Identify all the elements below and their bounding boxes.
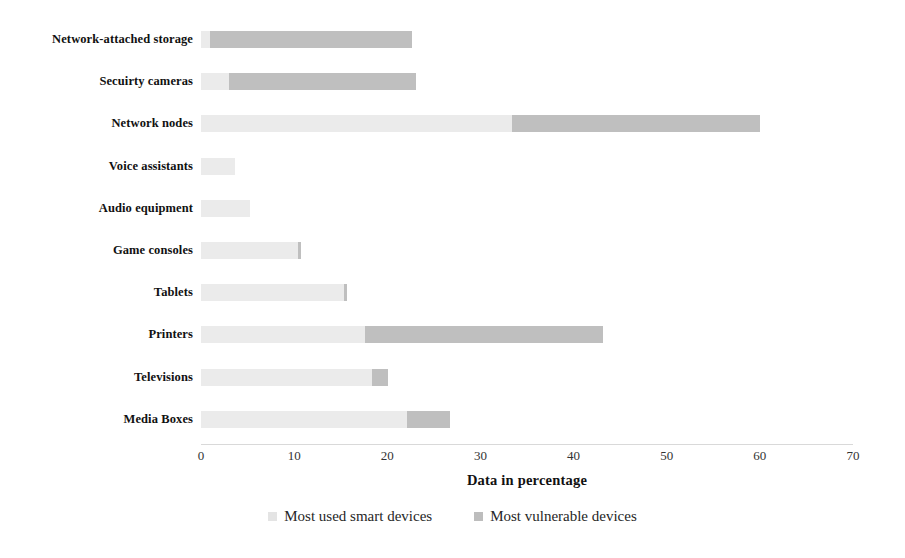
- bar-row: [201, 369, 388, 386]
- bar-row: [201, 31, 412, 48]
- y-axis-category-label: Voice assistants: [0, 159, 193, 173]
- bar-segment-most-vulnerable: [512, 115, 760, 132]
- bar-chart: Network-attached storageSecuirty cameras…: [0, 0, 905, 558]
- legend-swatch-vulnerable-icon: [474, 512, 483, 521]
- y-axis-category-label: Tablets: [0, 285, 193, 299]
- y-axis-category-label: Printers: [0, 327, 193, 341]
- x-axis-tick-label: 10: [288, 448, 301, 464]
- bar-segment-most-used: [201, 326, 365, 343]
- bar-row: [201, 242, 301, 259]
- bar-segment-most-vulnerable: [365, 326, 603, 343]
- bar-row: [201, 115, 760, 132]
- bar-row: [201, 73, 416, 90]
- bar-segment-most-vulnerable: [407, 411, 450, 428]
- bar-segment-most-used: [201, 411, 407, 428]
- bar-segment-most-used: [201, 73, 229, 90]
- legend-swatch-used-icon: [268, 512, 277, 521]
- x-axis-tick-label: 60: [753, 448, 766, 464]
- bar-segment-most-used: [201, 115, 512, 132]
- x-axis-tick-label: 20: [381, 448, 394, 464]
- bar-segment-most-used: [201, 242, 298, 259]
- bar-segment-most-used: [201, 200, 250, 217]
- bar-segment-most-used: [201, 284, 344, 301]
- bar-row: [201, 284, 347, 301]
- y-axis-category-label: Televisions: [0, 370, 193, 384]
- chart-legend: Most used smart devices Most vulnerable …: [0, 508, 905, 525]
- plot-area: [201, 22, 853, 444]
- bar-segment-most-vulnerable: [298, 242, 301, 259]
- bar-row: [201, 200, 250, 217]
- bar-segment-most-vulnerable: [344, 284, 347, 301]
- bar-segment-most-vulnerable: [372, 369, 388, 386]
- x-axis-title: Data in percentage: [201, 472, 853, 489]
- y-axis-category-labels: Network-attached storageSecuirty cameras…: [0, 22, 193, 444]
- bar-segment-most-used: [201, 158, 235, 175]
- bar-segment-most-vulnerable: [229, 73, 416, 90]
- y-axis-category-label: Network-attached storage: [0, 32, 193, 46]
- y-axis-category-label: Game consoles: [0, 243, 193, 257]
- bar-segment-most-used: [201, 369, 372, 386]
- x-axis-tick-label: 70: [847, 448, 860, 464]
- x-axis-tick-label: 30: [474, 448, 487, 464]
- bar-segment-most-vulnerable: [210, 31, 411, 48]
- x-axis-tick-labels: 010203040506070: [0, 448, 905, 468]
- bar-row: [201, 158, 235, 175]
- bar-segment-most-used: [201, 31, 210, 48]
- x-axis-tick-label: 0: [198, 448, 205, 464]
- legend-label-most-vulnerable-devices: Most vulnerable devices: [490, 508, 637, 525]
- bar-row: [201, 326, 603, 343]
- y-axis-category-label: Media Boxes: [0, 412, 193, 426]
- x-axis-tick-label: 50: [660, 448, 673, 464]
- x-axis-tick-label: 40: [567, 448, 580, 464]
- y-axis-category-label: Secuirty cameras: [0, 74, 193, 88]
- y-axis-category-label: Network nodes: [0, 116, 193, 130]
- legend-label-most-used-smart-devices: Most used smart devices: [284, 508, 432, 525]
- x-axis-line: [201, 444, 853, 445]
- legend-item-most-vulnerable-devices: Most vulnerable devices: [474, 508, 637, 525]
- y-axis-category-label: Audio equipment: [0, 201, 193, 215]
- bar-row: [201, 411, 450, 428]
- legend-item-most-used-smart-devices: Most used smart devices: [268, 508, 432, 525]
